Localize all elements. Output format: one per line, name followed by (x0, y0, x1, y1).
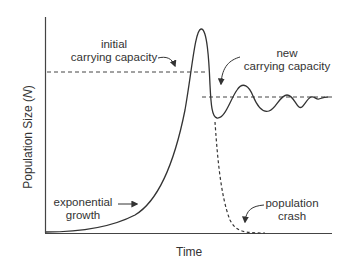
y-axis-label-prefix: Population Size ( (21, 98, 35, 189)
new-capacity-label-line2: carrying capacity (242, 60, 332, 73)
exponential-growth-label: exponential growth (50, 196, 116, 222)
population-growth-diagram: initial carrying capacity new carrying c… (0, 0, 350, 270)
y-axis-label: Population Size (N) (21, 77, 35, 197)
population-crash-label-line2: crash (262, 210, 322, 223)
new-capacity-arrow-icon (221, 57, 240, 84)
initial-capacity-label: initial carrying capacity (64, 38, 164, 64)
new-capacity-label-line1: new (242, 47, 332, 60)
x-axis-label: Time (176, 246, 202, 259)
population-crash-label-line1: population (262, 197, 322, 210)
y-axis-label-variable: N (21, 89, 35, 98)
population-crash-curve (215, 122, 265, 233)
initial-capacity-label-line1: initial (64, 38, 164, 51)
population-crash-label: population crash (262, 197, 322, 223)
diagram-canvas (0, 0, 350, 270)
exponential-growth-label-line1: exponential (50, 196, 116, 209)
exponential-growth-label-line2: growth (50, 209, 116, 222)
new-capacity-label: new carrying capacity (242, 47, 332, 73)
y-axis-label-suffix: ) (21, 85, 35, 89)
initial-capacity-label-line2: carrying capacity (64, 51, 164, 64)
